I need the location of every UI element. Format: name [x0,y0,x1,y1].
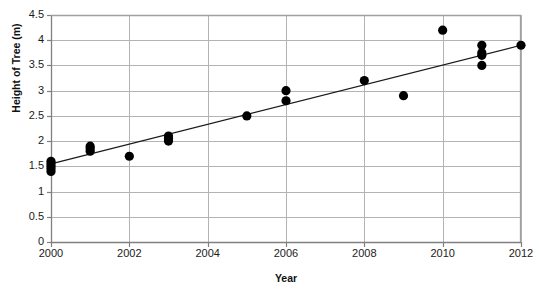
data-point [164,137,173,146]
data-point [125,152,134,161]
data-point [477,51,486,60]
data-point [242,111,251,120]
y-tick-marks [47,16,51,243]
data-point [477,61,486,70]
data-point [86,147,95,156]
scatter-chart: Height of Tree (m) Year 00.511.522.533.5… [0,0,539,295]
data-point [281,96,290,105]
data-point [46,167,55,176]
data-point [516,41,525,50]
data-point [399,91,408,100]
data-point [360,76,369,85]
plot-area [0,0,539,295]
data-point [281,86,290,95]
data-point [438,26,447,35]
